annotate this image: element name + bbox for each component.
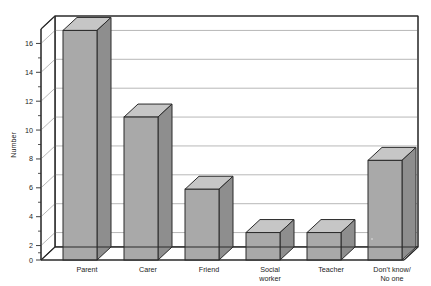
y-axis-ticks: [36, 43, 41, 260]
ytick-label-12: 12: [25, 97, 33, 106]
ytick-label-0: 0: [29, 256, 33, 265]
bar-dont-know-no-one: [368, 147, 416, 260]
bar-carer: [124, 104, 172, 260]
y-axis-tick-labels: 0 2 4 6 8 10 12 14 16: [25, 39, 33, 265]
bar-front-face: [124, 117, 158, 260]
bar-front-face: [63, 30, 97, 260]
cat-label-friend: Friend: [199, 265, 219, 274]
ytick-label-2: 2: [29, 241, 33, 250]
bar-front-face: [185, 189, 219, 260]
bar-teacher: [307, 220, 355, 260]
chart-canvas: 0 2 4 6 8 10 12 14 16 Number Parent Care…: [0, 0, 431, 286]
bar-side-face: [402, 147, 416, 260]
cat-label-social-worker-line2: worker: [258, 274, 281, 283]
ytick-label-8: 8: [29, 154, 33, 163]
cat-label-dont-know-line2: No one: [380, 274, 403, 283]
cat-label-carer: Carer: [139, 265, 158, 274]
bar-front-face: [246, 233, 280, 260]
bar-front-face: [307, 233, 341, 260]
cat-label-dont-know-line1: Don't know/: [373, 265, 410, 274]
bar-social-worker: [246, 220, 294, 260]
scan-artifact: [371, 238, 373, 240]
bar-side-face: [97, 17, 111, 260]
bar-side-face: [158, 104, 172, 260]
y-axis-title: Number: [9, 132, 18, 158]
plot-left-wall: [41, 16, 55, 260]
ytick-label-6: 6: [29, 183, 33, 192]
cat-label-teacher: Teacher: [318, 265, 344, 274]
ytick-label-14: 14: [25, 68, 33, 77]
ytick-label-16: 16: [25, 39, 33, 48]
ytick-label-4: 4: [29, 212, 33, 221]
bar-front-face: [368, 160, 402, 260]
bar-chart: 0 2 4 6 8 10 12 14 16 Number Parent Care…: [0, 0, 431, 286]
ytick-label-10: 10: [25, 126, 33, 135]
x-axis-category-labels: Parent Carer Friend Social worker Teache…: [76, 265, 410, 283]
cat-label-parent: Parent: [76, 265, 97, 274]
cat-label-social-worker-line1: Social: [260, 265, 280, 274]
bar-parent: [63, 17, 111, 260]
